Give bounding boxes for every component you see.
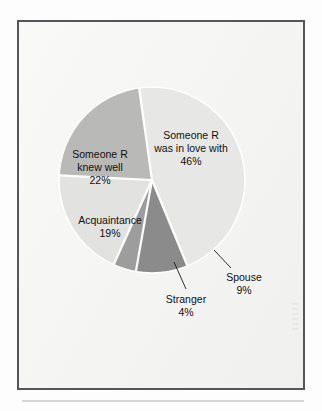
slice-value-acquaintance: 19% xyxy=(99,227,120,239)
slice-label2-someone-r-knew-well: knew well xyxy=(77,161,123,173)
slice-label-spouse: Spouse xyxy=(226,271,262,283)
pie-chart-svg: Someone Rwas in love with46%Spouse9%Stra… xyxy=(0,0,322,411)
slice-value-someone-r-knew-well: 22% xyxy=(89,174,110,186)
pie-chart: Someone Rwas in love with46%Spouse9%Stra… xyxy=(0,0,322,411)
leader-line-spouse xyxy=(214,250,231,268)
slice-value-someone-r-was-in-love-with: 46% xyxy=(180,155,201,167)
slice-label-acquaintance: Acquaintance xyxy=(78,214,142,226)
slice-label2-someone-r-was-in-love-with: was in love with xyxy=(153,142,228,154)
slice-label-someone-r-was-in-love-with: Someone R xyxy=(163,129,219,141)
slice-value-spouse: 9% xyxy=(236,284,251,296)
slice-label-someone-r-knew-well: Someone R xyxy=(72,148,128,160)
slice-label-stranger: Stranger xyxy=(166,293,207,305)
slice-value-stranger: 4% xyxy=(178,306,193,318)
